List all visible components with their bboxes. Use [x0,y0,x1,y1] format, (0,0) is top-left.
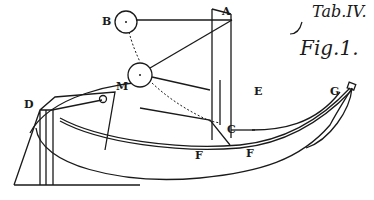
label-d: D [24,98,34,111]
label-g: G [330,85,339,98]
plate-caption: Tab.IV. [312,2,366,21]
dotted-path-m-c [152,83,220,123]
label-b: B [102,15,111,28]
rope-m-a [150,20,232,68]
boat-hull-outer [36,88,352,179]
label-c: C [227,123,236,136]
figure-caption: Fig.1. [299,36,359,60]
label-e: E [254,85,262,98]
sail-curve [30,82,150,133]
label-m: M [116,80,128,93]
label-f2: F [246,147,254,160]
dotted-path-b-m [128,28,140,62]
mast [212,9,231,140]
label-f1: F [195,149,203,162]
engraving-diagram: B A M D E C F F G Tab.IV. Fig.1. [0,0,374,200]
label-a: A [221,5,231,18]
